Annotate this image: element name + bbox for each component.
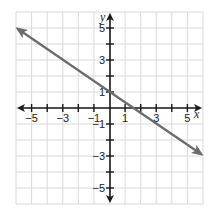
y-tick-label: −5 [92,182,105,194]
y-tick-label: −1 [92,118,105,130]
x-tick-labels: −5 −3 −1 1 3 5 [25,112,190,124]
coordinate-plane-chart: −5 −3 −1 1 3 5 5 3 1 −1 −3 −5 x y [0,0,220,218]
x-tick-label: 1 [122,112,128,124]
x-tick-label: −3 [57,112,70,124]
y-tick-label: 3 [99,54,105,66]
x-axis-label: x [193,107,200,121]
y-tick-label: −3 [92,150,105,162]
y-axis-label: y [99,10,106,24]
x-tick-label: 5 [184,112,190,124]
x-tick-label: −5 [25,112,38,124]
axes [19,15,200,201]
